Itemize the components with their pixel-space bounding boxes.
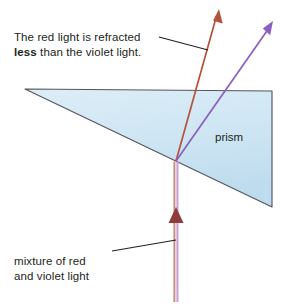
- bottom-caption-line-1: mixture of red: [14, 254, 89, 269]
- top-caption-line-1: The red light is refracted: [14, 30, 141, 45]
- prism-label: prism: [215, 131, 243, 143]
- top-caption-emphasis: less: [14, 46, 37, 58]
- incoming-beam: [174, 162, 177, 303]
- top-caption-leader-line: [159, 37, 208, 50]
- bottom-caption-line-2: and violet light: [14, 269, 89, 284]
- incoming-beam-arrowhead: [169, 207, 184, 223]
- prism-refraction-figure: The red light is refracted less than the…: [0, 0, 292, 306]
- top-caption-line-2: less than the violet light.: [14, 45, 141, 60]
- bottom-caption-leader-line: [112, 240, 176, 251]
- prism-shape: [25, 89, 272, 207]
- top-caption-line-2-rest: than the violet light.: [37, 46, 142, 58]
- bottom-caption: mixture of red and violet light: [14, 254, 89, 284]
- top-caption: The red light is refracted less than the…: [14, 30, 141, 60]
